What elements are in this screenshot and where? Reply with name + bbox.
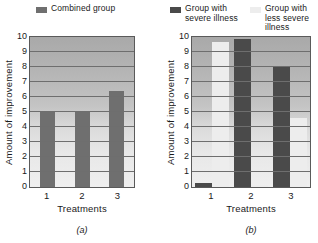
legend-label-less-severe-illness: Group with less severe illness bbox=[265, 4, 309, 33]
plot-wrap-b: 123 Treatments (b) bbox=[191, 36, 311, 235]
y-tick-label: 4 bbox=[184, 121, 189, 131]
bar-group bbox=[30, 37, 65, 187]
bar bbox=[290, 118, 307, 187]
y-axis-ticks-a: 012345678910 bbox=[15, 36, 29, 186]
x-axis-ticks-b: 123 bbox=[191, 188, 311, 202]
y-tick-label: 8 bbox=[184, 61, 189, 71]
gridline bbox=[30, 126, 134, 127]
gridline bbox=[192, 126, 310, 127]
y-tick-label: 5 bbox=[22, 106, 27, 116]
legend-entry-severe-illness: Group with severe illness bbox=[170, 4, 238, 23]
legend-entry-less-severe-illness: Group with less severe illness bbox=[250, 4, 309, 33]
bar-groups-b bbox=[192, 37, 310, 187]
legend-label-severe-illness: Group with severe illness bbox=[185, 4, 238, 23]
x-tick-label: 1 bbox=[191, 188, 231, 202]
gridline bbox=[192, 36, 310, 37]
bar bbox=[109, 91, 124, 187]
y-axis-ticks-b: 012345678910 bbox=[177, 36, 191, 186]
bar-group bbox=[231, 37, 270, 187]
y-tick-label: 3 bbox=[22, 136, 27, 146]
bar bbox=[40, 112, 55, 187]
gridline bbox=[192, 171, 310, 172]
legend-swatch-severe-illness bbox=[170, 7, 181, 13]
x-tick-label: 2 bbox=[231, 188, 271, 202]
bar bbox=[195, 183, 212, 188]
gridline bbox=[30, 171, 134, 172]
bar-groups-a bbox=[30, 37, 134, 187]
x-tick-label: 2 bbox=[64, 188, 99, 202]
y-tick-label: 3 bbox=[184, 136, 189, 146]
y-tick-label: 8 bbox=[22, 61, 27, 71]
plot-wrap-a: 123 Treatments (a) bbox=[29, 36, 135, 235]
y-tick-label: 9 bbox=[184, 46, 189, 56]
bar-group bbox=[192, 37, 231, 187]
x-axis-ticks-a: 123 bbox=[29, 188, 135, 202]
plot-area-b bbox=[191, 36, 311, 188]
chart-a-body: Amount of improvement 012345678910 123 T… bbox=[2, 36, 135, 235]
y-tick-label: 7 bbox=[184, 76, 189, 86]
gridline bbox=[192, 111, 310, 112]
y-tick-label: 5 bbox=[184, 106, 189, 116]
x-tick-label: 3 bbox=[271, 188, 311, 202]
bar bbox=[212, 42, 229, 188]
bar bbox=[273, 67, 290, 187]
chart-b-body: Amount of improvement 012345678910 123 T… bbox=[164, 36, 311, 235]
gridline bbox=[30, 36, 134, 37]
panel-a: Combined group Amount of improvement 012… bbox=[0, 0, 156, 243]
y-axis-title-b: Amount of improvement bbox=[164, 36, 177, 188]
gridline bbox=[30, 66, 134, 67]
bar-group bbox=[65, 37, 100, 187]
plot-area-a bbox=[29, 36, 135, 188]
y-tick-label: 6 bbox=[22, 91, 27, 101]
legend-panel-a: Combined group bbox=[36, 4, 115, 14]
y-tick-label: 9 bbox=[22, 46, 27, 56]
legend-swatch-combined-group bbox=[36, 7, 47, 13]
y-tick-label: 10 bbox=[179, 31, 189, 41]
gridline bbox=[192, 156, 310, 157]
y-tick-label: 1 bbox=[22, 166, 27, 176]
gridline bbox=[192, 141, 310, 142]
y-tick-label: 4 bbox=[22, 121, 27, 131]
gridline bbox=[30, 141, 134, 142]
y-tick-label: 6 bbox=[184, 91, 189, 101]
gridline bbox=[192, 51, 310, 52]
y-tick-label: 0 bbox=[22, 181, 27, 191]
panel-b: Group with severe illness Group with les… bbox=[156, 0, 318, 243]
caption-b: (b) bbox=[191, 214, 311, 235]
bar bbox=[75, 112, 90, 187]
y-tick-label: 10 bbox=[17, 31, 27, 41]
bar bbox=[251, 185, 268, 187]
gridline bbox=[30, 51, 134, 52]
gridline bbox=[192, 96, 310, 97]
x-tick-label: 3 bbox=[100, 188, 135, 202]
gridline bbox=[30, 96, 134, 97]
x-tick-label: 1 bbox=[29, 188, 64, 202]
y-tick-label: 7 bbox=[22, 76, 27, 86]
legend-entry-combined-group: Combined group bbox=[36, 4, 115, 14]
y-tick-label: 2 bbox=[184, 151, 189, 161]
legend-panel-b: Group with severe illness Group with les… bbox=[170, 4, 316, 33]
x-axis-title-b: Treatments bbox=[191, 202, 311, 214]
y-tick-label: 0 bbox=[184, 181, 189, 191]
bar bbox=[234, 39, 251, 187]
bar-group bbox=[99, 37, 134, 187]
bar-group bbox=[271, 37, 310, 187]
legend-swatch-less-severe-illness bbox=[250, 7, 261, 13]
gridline bbox=[30, 111, 134, 112]
gridline bbox=[30, 156, 134, 157]
x-axis-title-a: Treatments bbox=[29, 202, 135, 214]
gridline bbox=[192, 66, 310, 67]
caption-a: (a) bbox=[29, 214, 135, 235]
gridline bbox=[30, 81, 134, 82]
y-tick-label: 2 bbox=[22, 151, 27, 161]
figure-two-panel-bar-charts: Combined group Amount of improvement 012… bbox=[0, 0, 318, 243]
legend-label-combined-group: Combined group bbox=[51, 4, 115, 14]
y-tick-label: 1 bbox=[184, 166, 189, 176]
y-axis-title-a: Amount of improvement bbox=[2, 36, 15, 188]
gridline bbox=[192, 81, 310, 82]
